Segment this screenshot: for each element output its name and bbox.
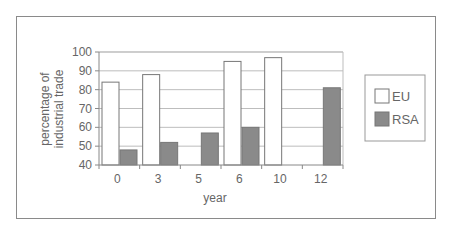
legend: EU RSA <box>365 75 425 141</box>
x-axis-title: year <box>203 191 226 205</box>
legend-label-eu: EU <box>392 89 410 104</box>
y-tick-label: 80 <box>79 83 93 97</box>
legend-swatch-eu <box>375 89 389 103</box>
legend-box <box>365 75 425 141</box>
bar-rsa-0 <box>120 150 137 165</box>
x-tick-label: 3 <box>155 172 162 186</box>
y-tick-label: 100 <box>72 45 92 59</box>
y-tick-label: 50 <box>79 139 93 153</box>
y-axis-title: percentage of industrial trade <box>38 69 66 148</box>
bar-rsa-3 <box>161 142 178 165</box>
bar-rsa-5 <box>201 133 218 165</box>
x-tick-label: 6 <box>236 172 243 186</box>
bar-eu-10 <box>265 58 282 165</box>
bar-eu-0 <box>102 82 119 165</box>
y-axis-title-line-1: percentage of <box>38 72 52 146</box>
bar-chart: 40506070809010003561012 year percentage … <box>0 0 452 236</box>
y-tick-label: 40 <box>79 158 93 172</box>
x-tick-label: 10 <box>273 172 287 186</box>
bars <box>102 58 340 165</box>
legend-label-rsa: RSA <box>392 112 419 127</box>
y-tick-label: 70 <box>79 102 93 116</box>
legend-swatch-rsa <box>375 112 389 126</box>
y-axis-title-line-2: industrial trade <box>52 69 66 148</box>
bar-eu-6 <box>224 61 241 165</box>
bar-rsa-6 <box>242 127 259 165</box>
gridlines <box>99 52 343 165</box>
y-tick-label: 60 <box>79 120 93 134</box>
bar-eu-3 <box>143 75 160 165</box>
x-tick-label: 12 <box>314 172 328 186</box>
y-tick-label: 90 <box>79 64 93 78</box>
bar-rsa-12 <box>323 88 340 165</box>
x-tick-label: 5 <box>195 172 202 186</box>
x-tick-label: 0 <box>114 172 121 186</box>
